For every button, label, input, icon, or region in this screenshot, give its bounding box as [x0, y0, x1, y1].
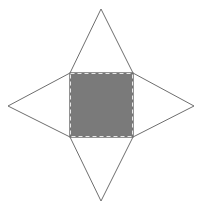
pyramid-net-diagram: [0, 0, 202, 211]
top-triangle-face: [70, 9, 133, 73]
left-triangle-face: [8, 73, 70, 137]
bottom-triangle-face: [70, 137, 133, 201]
square-base: [70, 73, 133, 137]
right-triangle-face: [133, 73, 194, 137]
